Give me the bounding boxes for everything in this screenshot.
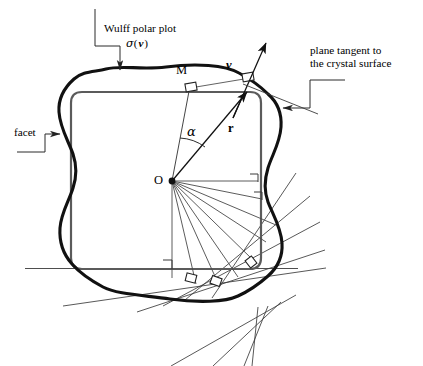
equilibrium-crystal-shape <box>71 92 261 269</box>
point-M-label: M <box>176 63 187 78</box>
vector-v-label: v <box>226 58 232 73</box>
point-O-label: O <box>154 173 163 188</box>
right-angle-marker <box>245 256 257 268</box>
sigma-symbol: σ <box>126 37 134 50</box>
figure-canvas: Wulff polar plot σ(v) plane tangent to t… <box>0 0 423 366</box>
radius-ray <box>172 181 252 259</box>
point-O-text: O <box>154 173 163 187</box>
wulff-label-line1: Wulff polar plot <box>104 22 176 34</box>
plane-tangent-label: plane tangent to the crystal surface <box>310 44 391 70</box>
tangent-label-line2: the crystal surface <box>310 57 391 70</box>
chord-M-to-tangent-point <box>190 78 250 88</box>
angle-alpha-text: α <box>187 124 196 139</box>
right-angle-markers <box>185 72 257 286</box>
origin-point-dot <box>169 178 176 185</box>
tangent-label-line1: plane tangent to <box>310 44 391 57</box>
sigma-of-v-label: σ(v) <box>126 37 148 50</box>
facet-label-text: facet <box>14 126 36 138</box>
right-angle-marker-bottom-facet <box>163 260 172 269</box>
facet-label: facet <box>14 126 36 139</box>
point-M-text: M <box>176 63 187 77</box>
vector-r-label: r <box>228 121 234 136</box>
vector-v-tail <box>233 93 244 118</box>
leader-wulff <box>95 9 120 70</box>
tangent-line <box>137 250 325 312</box>
angle-alpha-label: α <box>187 124 196 139</box>
tangent-line <box>213 302 281 366</box>
tangent-line <box>252 307 258 366</box>
tangent-plane-line <box>243 84 318 114</box>
wulff-polar-plot-label: Wulff polar plot <box>104 22 176 35</box>
paren-close: ) <box>144 37 148 49</box>
vector-v-text: v <box>226 58 232 72</box>
right-angle-marker <box>185 82 197 92</box>
vector-r-text: r <box>228 121 234 135</box>
vector-r-arrow <box>172 92 247 181</box>
right-angle-marker <box>185 273 197 283</box>
tangent-line <box>244 306 268 366</box>
